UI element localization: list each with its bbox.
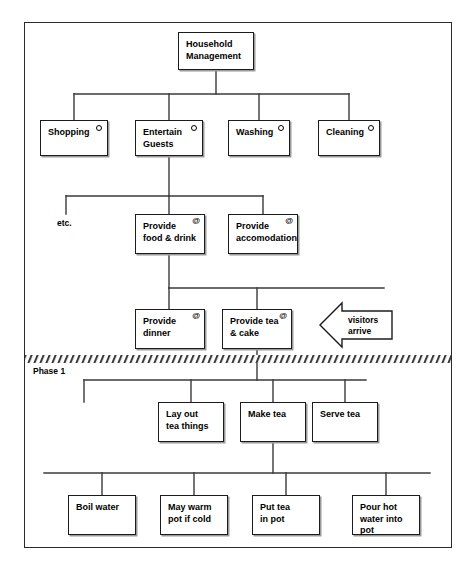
- node-cleaning: Cleaning: [318, 120, 380, 156]
- node-entertain-guests: Entertain Guests: [135, 120, 203, 156]
- node-label-entertain-guests: Entertain Guests: [143, 127, 195, 150]
- node-provide-tea-cake: Provide tea & cake@: [222, 309, 292, 349]
- node-label-make-tea: Make tea: [248, 409, 298, 421]
- node-label-boil-water: Boil water: [76, 502, 128, 514]
- node-provide-dinner: Provide dinner@: [135, 309, 205, 349]
- marker-circle-icon-washing: [278, 125, 284, 131]
- phase-1-label: Phase 1: [33, 366, 65, 376]
- marker-circle-icon-entertain-guests: [191, 125, 197, 131]
- node-label-provide-dinner: Provide dinner: [143, 316, 197, 339]
- node-pour-hot-water-into-pot: Pour hot water into pot: [352, 495, 420, 535]
- node-washing: Washing: [228, 120, 290, 156]
- node-make-tea: Make tea: [240, 402, 306, 442]
- marker-at-icon-provide-accomodation: @: [285, 217, 293, 225]
- node-lay-out-tea-things: Lay out tea things: [158, 402, 224, 442]
- marker-circle-icon-shopping: [96, 125, 102, 131]
- marker-at-icon-provide-tea-cake: @: [279, 312, 287, 320]
- node-household-management: Household Management: [178, 32, 254, 70]
- figure-frame: [24, 22, 452, 548]
- diagram-page: Household ManagementShoppingEntertain Gu…: [0, 0, 476, 582]
- node-label-provide-accomodation: Provide accomodation: [236, 221, 290, 244]
- node-label-serve-tea: Serve tea: [320, 409, 370, 421]
- node-label-provide-food-drink: Provide food & drink: [143, 221, 197, 244]
- node-label-lay-out-tea-things: Lay out tea things: [166, 409, 216, 432]
- node-label-cleaning: Cleaning: [326, 127, 372, 139]
- etc-label: etc.: [57, 218, 72, 228]
- visitors-arrive-label: visitors arrive: [348, 315, 378, 337]
- node-put-tea-in-pot: Put tea in pot: [252, 495, 320, 535]
- node-may-warm-pot-if-cold: May warm pot if cold: [160, 495, 228, 535]
- node-provide-accomodation: Provide accomodation@: [228, 214, 298, 254]
- node-shopping: Shopping: [40, 120, 108, 156]
- marker-at-icon-provide-food-drink: @: [192, 217, 200, 225]
- node-label-washing: Washing: [236, 127, 282, 139]
- node-provide-food-drink: Provide food & drink@: [135, 214, 205, 254]
- node-boil-water: Boil water: [68, 495, 136, 535]
- marker-at-icon-provide-dinner: @: [192, 312, 200, 320]
- node-label-may-warm-pot-if-cold: May warm pot if cold: [168, 502, 220, 525]
- node-label-pour-hot-water-into-pot: Pour hot water into pot: [360, 502, 412, 537]
- node-label-shopping: Shopping: [48, 127, 100, 139]
- marker-circle-icon-cleaning: [368, 125, 374, 131]
- node-label-household-management: Household Management: [186, 39, 246, 62]
- node-label-put-tea-in-pot: Put tea in pot: [260, 502, 312, 525]
- node-label-provide-tea-cake: Provide tea & cake: [230, 316, 284, 339]
- node-serve-tea: Serve tea: [312, 402, 378, 442]
